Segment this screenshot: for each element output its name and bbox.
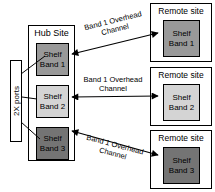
remote-shelf-band-2-label: Shelf Band 2	[169, 93, 194, 111]
hub-shelf-band-2-label: Shelf Band 2	[40, 92, 65, 110]
remote-site-1-box: Remote site Shelf Band 1	[150, 3, 212, 62]
remote-site-2-box: Remote site Shelf Band 2	[150, 67, 212, 126]
remote-site-2-title: Remote site	[151, 70, 211, 80]
hub-shelf-band-3: Shelf Band 3	[36, 127, 69, 160]
hub-site-title: Hub Site	[29, 28, 74, 39]
remote-shelf-band-1-label: Shelf Band 1	[169, 29, 194, 47]
remote-site-3-box: Remote site Shelf Band 3	[150, 130, 212, 189]
channel-label-1: Band 1 Overhead Channel	[75, 7, 153, 43]
remote-shelf-band-1: Shelf Band 1	[163, 20, 200, 57]
hub-shelf-band-2: Shelf Band 2	[36, 85, 69, 118]
remote-site-1-title: Remote site	[151, 6, 211, 16]
hub-shelf-band-1: Shelf Band 1	[36, 43, 69, 76]
remote-shelf-band-3: Shelf Band 3	[163, 147, 200, 184]
remote-site-3-title: Remote site	[151, 133, 211, 143]
hub-shelf-band-1-label: Shelf Band 1	[40, 50, 65, 68]
channel-label-2: Band 1 Overhead Channel	[77, 75, 149, 93]
ports-box: 2X ports	[10, 60, 22, 142]
overhead-channel-arrow-2	[72, 96, 158, 97]
remote-shelf-band-2: Shelf Band 2	[163, 84, 200, 121]
ports-label: 2X ports	[12, 86, 21, 116]
hub-site-box: Hub Site Shelf Band 1 Shelf Band 2 Shelf…	[28, 25, 75, 161]
channel-label-3: Band 1 Overhead Channel	[75, 130, 153, 167]
diagram-canvas: 2X ports Hub Site Shelf Band 1 Shelf Ban…	[0, 0, 215, 192]
hub-shelf-band-3-label: Shelf Band 3	[40, 134, 65, 152]
remote-shelf-band-3-label: Shelf Band 3	[169, 156, 194, 174]
